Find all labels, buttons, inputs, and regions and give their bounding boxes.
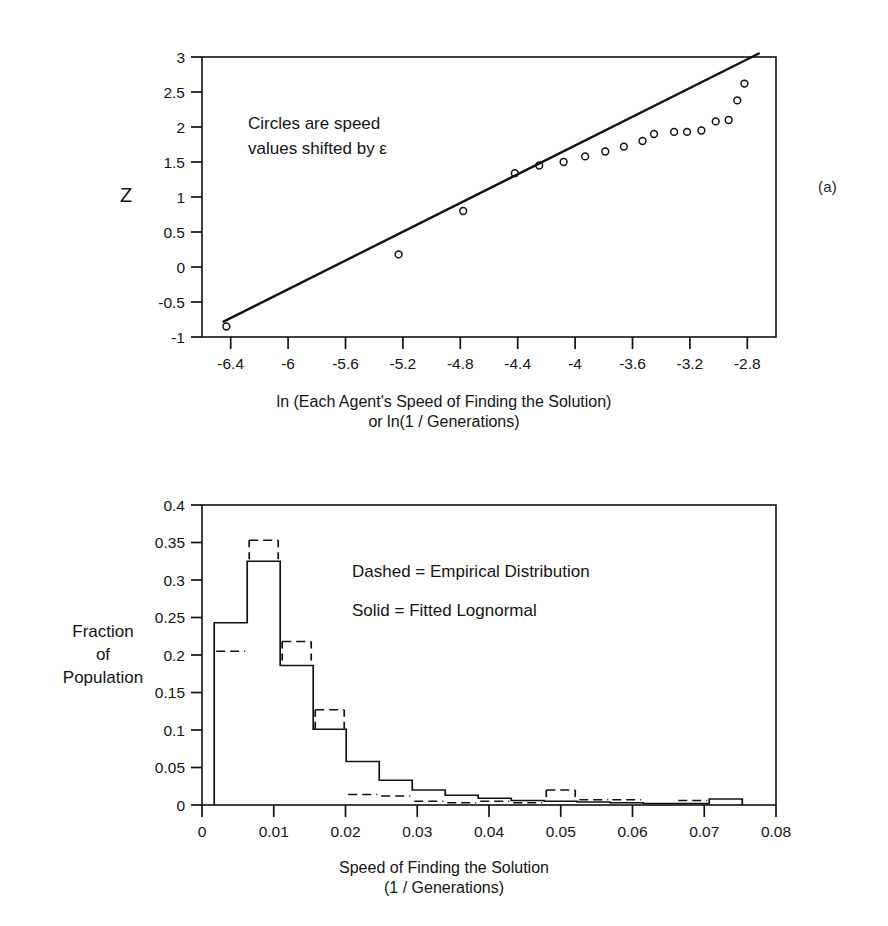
panel-b-frame <box>202 505 776 805</box>
panel-b-x-tick-label: 0.04 <box>474 823 505 840</box>
panel-b-x-tick-label: 0.08 <box>761 823 791 840</box>
panel-a-x-tick-label: -4.4 <box>504 355 531 372</box>
panel-b-y-axis-label-line3: Population <box>28 667 178 690</box>
panel-a-annotation-line1: Circles are speed <box>248 112 387 137</box>
panel-b-x-tick-label: 0.07 <box>689 823 719 840</box>
panel-a-annotation-line2: values shifted by ε <box>248 137 387 162</box>
panel-b-x-tick-label: 0.06 <box>617 823 647 840</box>
panel-a-x-axis-label-line1: ln (Each Agent's Speed of Finding the So… <box>0 392 888 412</box>
panel-b-legend-line1: Dashed = Empirical Distribution <box>352 560 590 585</box>
panel-b-y-tick-label: 0.4 <box>163 497 185 514</box>
panel-a-x-tick-label: -3.6 <box>619 355 646 372</box>
panel-b-y-axis-label: Fraction of Population <box>28 621 178 690</box>
panel-b-x-axis-label: Speed of Finding the Solution (1 / Gener… <box>0 858 888 899</box>
panel-a-x-tick-label: -3.2 <box>677 355 704 372</box>
panel-a-x-tick-label: -5.6 <box>332 355 359 372</box>
panel-b-legend: Dashed = Empirical Distribution Solid = … <box>352 560 590 623</box>
figure-container: -1-0.500.511.522.53-6.4-6-5.6-5.2-4.8-4.… <box>0 0 888 926</box>
panel-b-x-axis-label-line2: (1 / Generations) <box>0 878 888 898</box>
panel-a-y-tick-label: 3 <box>176 49 185 66</box>
panel-a-frame <box>202 57 776 337</box>
panel-b-x-tick-label: 0.03 <box>402 823 432 840</box>
panel-b-y-tick-label: 0.1 <box>163 722 185 739</box>
panel-b-x-tick-label: 0 <box>198 823 207 840</box>
panel-a-y-tick-label: 1 <box>176 189 185 206</box>
panel-a-x-tick-label: -6 <box>281 355 295 372</box>
panel-b-x-tick-label: 0.02 <box>330 823 360 840</box>
panel-a-y-tick-label: -1 <box>171 329 185 346</box>
panel-a-probability-plot: -1-0.500.511.522.53-6.4-6-5.6-5.2-4.8-4.… <box>0 0 888 460</box>
panel-a-x-tick-label: -2.8 <box>734 355 761 372</box>
panel-a-y-tick-label: 2.5 <box>163 84 185 101</box>
panel-a-y-tick-label: 0.5 <box>163 224 185 241</box>
panel-a-x-tick-label: -4.8 <box>447 355 474 372</box>
panel-a-y-tick-label: 1.5 <box>163 154 185 171</box>
panel-b-y-tick-label: 0.35 <box>155 534 185 551</box>
panel-b-x-tick-label: 0.05 <box>546 823 576 840</box>
panel-b-x-axis-label-line1: Speed of Finding the Solution <box>0 858 888 878</box>
panel-a-y-axis-label: Z <box>120 184 132 207</box>
panel-a-y-tick-label: 2 <box>176 119 185 136</box>
panel-b-plot-area: 00.050.10.150.20.250.30.350.400.010.020.… <box>0 460 888 926</box>
panel-a-x-axis-label: ln (Each Agent's Speed of Finding the So… <box>0 392 888 433</box>
panel-b-x-tick-label: 0.01 <box>259 823 289 840</box>
panel-a-x-tick-label: -6.4 <box>217 355 244 372</box>
panel-a-tag: (a) <box>818 178 837 195</box>
panel-a-annotation: Circles are speed values shifted by ε <box>248 112 387 161</box>
panel-b-y-tick-label: 0.05 <box>155 759 185 776</box>
panel-b-y-tick-label: 0.3 <box>163 572 185 589</box>
panel-a-plot-area: -1-0.500.511.522.53-6.4-6-5.6-5.2-4.8-4.… <box>0 0 888 460</box>
panel-a-y-tick-label: 0 <box>176 259 185 276</box>
panel-a-x-axis-label-line2: or ln(1 / Generations) <box>0 412 888 432</box>
panel-a-y-tick-label: -0.5 <box>158 294 185 311</box>
panel-a-x-tick-label: -5.2 <box>390 355 417 372</box>
panel-b-y-tick-label: 0 <box>176 797 185 814</box>
panel-b-histogram: 00.050.10.150.20.250.30.350.400.010.020.… <box>0 460 888 926</box>
panel-b-legend-line2: Solid = Fitted Lognormal <box>352 599 590 624</box>
panel-b-y-axis-label-line2: of <box>28 644 178 667</box>
panel-a-x-tick-label: -4 <box>568 355 582 372</box>
panel-b-y-axis-label-line1: Fraction <box>28 621 178 644</box>
